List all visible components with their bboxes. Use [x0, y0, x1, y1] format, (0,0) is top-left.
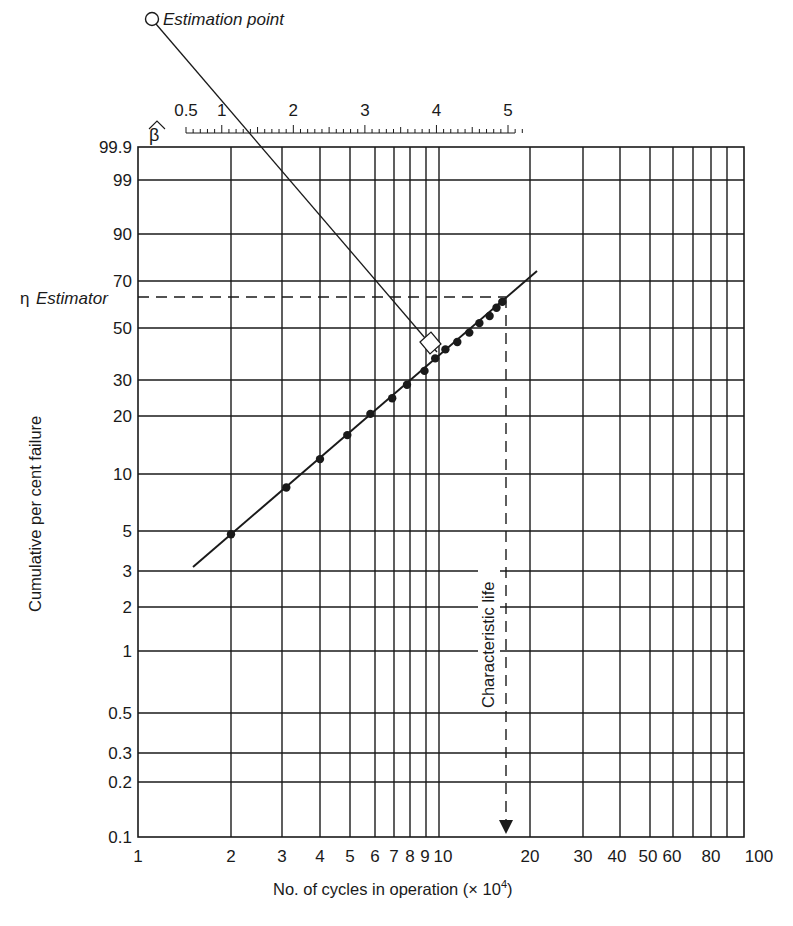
- y-tick-label: 20: [113, 407, 132, 426]
- beta-scale: β 0.512345: [149, 101, 522, 145]
- y-tick-label: 50: [113, 319, 132, 338]
- x-tick-label: 10: [434, 847, 453, 866]
- eta-estimator: η Estimator: [20, 289, 506, 308]
- y-tick-labels: 99.99990705030201053210.50.30.20.1: [99, 138, 132, 847]
- x-tick-label: 1: [133, 847, 142, 866]
- data-point: [441, 345, 449, 353]
- data-point: [366, 410, 374, 418]
- data-point: [388, 394, 396, 402]
- x-tick-label: 6: [370, 847, 379, 866]
- x-tick-label: 4: [315, 847, 324, 866]
- x-tick-label: 9: [420, 847, 429, 866]
- data-point: [465, 328, 473, 336]
- data-point: [227, 530, 235, 538]
- x-tick-label: 5: [345, 847, 354, 866]
- y-tick-label: 0.3: [108, 744, 132, 763]
- y-tick-label: 70: [113, 272, 132, 291]
- y-tick-label: 10: [113, 465, 132, 484]
- data-point: [485, 312, 493, 320]
- plot-frame: [138, 147, 744, 837]
- y-tick-label: 2: [123, 598, 132, 617]
- x-tick-label: 20: [521, 847, 540, 866]
- data-point: [498, 298, 506, 306]
- y-tick-label: 5: [123, 522, 132, 541]
- estimation-point-label: Estimation point: [163, 10, 285, 29]
- eta-label: Estimator: [36, 289, 109, 308]
- beta-label: 5: [503, 101, 512, 120]
- x-tick-label: 60: [663, 847, 682, 866]
- x-tick-label: 80: [702, 847, 721, 866]
- estimation-line: [156, 24, 441, 354]
- eta-symbol: η: [20, 289, 29, 308]
- x-tick-label: 50: [639, 847, 658, 866]
- y-axis-title: Cumulative per cent failure: [26, 416, 44, 612]
- data-point: [475, 319, 483, 327]
- beta-label: 0.5: [174, 101, 198, 120]
- characteristic-life-label: Characteristic life: [479, 581, 497, 708]
- x-tick-labels: 12345678910203040506080100: [133, 847, 773, 866]
- data-point: [343, 431, 351, 439]
- estimation-line-segment: [156, 24, 437, 352]
- y-tick-label: 0.5: [108, 704, 132, 723]
- x-tick-label: 2: [226, 847, 235, 866]
- estimation-point-marker: [146, 13, 159, 26]
- arrow-down-icon: [499, 820, 513, 834]
- y-tick-label: 3: [123, 562, 132, 581]
- data-point: [282, 483, 290, 491]
- beta-label: 3: [360, 101, 369, 120]
- x-axis-title: No. of cycles in operation (× 104): [273, 878, 513, 898]
- fitted-line: [193, 271, 537, 567]
- y-tick-label: 0.2: [108, 773, 132, 792]
- y-tick-label: 30: [113, 371, 132, 390]
- x-tick-label: 7: [389, 847, 398, 866]
- estimation-point: Estimation point: [146, 10, 286, 29]
- x-tick-label: 3: [277, 847, 286, 866]
- y-tick-label: 1: [123, 642, 132, 661]
- beta-ticks: [186, 125, 522, 133]
- x-tick-label: 30: [574, 847, 593, 866]
- y-tick-label: 90: [113, 225, 132, 244]
- data-point: [403, 381, 411, 389]
- y-tick-label: 0.1: [108, 828, 132, 847]
- x-tick-label: 100: [745, 847, 773, 866]
- x-tick-label: 40: [608, 847, 627, 866]
- data-point: [420, 367, 428, 375]
- grid: [138, 147, 744, 837]
- y-tick-label: 99: [113, 171, 132, 190]
- weibull-chart: Estimation point β 0.512345 99.999907050…: [0, 0, 793, 926]
- data-point: [453, 338, 461, 346]
- beta-label: 4: [432, 101, 441, 120]
- beta-label: 2: [289, 101, 298, 120]
- data-point: [431, 354, 439, 362]
- y-tick-label: 99.9: [99, 138, 132, 157]
- data-point: [316, 455, 324, 463]
- x-tick-label: 8: [405, 847, 414, 866]
